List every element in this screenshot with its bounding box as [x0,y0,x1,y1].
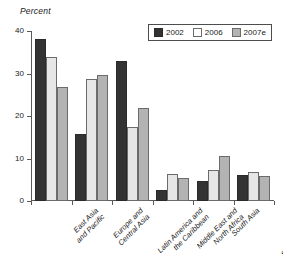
legend-item-label: 2006 [205,28,223,37]
x-axis-tick [153,201,154,205]
legend-item: 2007e [232,28,266,37]
bar-group [116,31,149,201]
y-axis-title: Percent [20,6,51,16]
x-axis-category-label: Europe andCentral Asia [110,206,151,247]
bar [178,178,189,201]
y-axis-tick: 20 [27,116,31,117]
x-axis-tick [72,201,73,205]
legend-swatch-2006 [193,28,202,37]
x-axis-category-label: Sub-Saharan Africa [279,206,283,258]
bar [75,134,86,201]
legend-item-label: 2002 [166,28,184,37]
legend-swatch-2002 [154,28,163,37]
chart-legend: 200220062007e [148,24,272,41]
bar [259,176,270,202]
bar-group [237,31,270,201]
bar [156,190,167,201]
bar [86,79,97,201]
legend-swatch-2007e [232,28,241,37]
y-axis-tick: 10 [27,159,31,160]
x-axis-tick [274,201,275,205]
bar [127,127,138,201]
legend-item: 2006 [193,28,223,37]
bar [97,75,108,201]
y-axis-tick: 30 [27,74,31,75]
x-axis-category-label: Latin America andthe Caribbean [156,206,211,261]
x-axis-category-label: Middle East andNorth Africa [195,206,246,257]
plot-area: 010203040 [31,31,274,201]
x-axis-tick [193,201,194,205]
y-axis-tick-label: 30 [15,69,24,78]
bar [248,172,259,201]
y-axis-tick-label: 10 [15,154,24,163]
bar-group [156,31,189,201]
x-axis-category-label: East Asiaand Pacific [68,206,107,245]
y-axis-tick-label: 40 [15,26,24,35]
bar [46,57,57,202]
bar-group [35,31,68,201]
x-axis-tick [234,201,235,205]
y-axis-line [31,31,32,201]
legend-item-label: 2007e [244,28,266,37]
x-axis-tick [31,201,32,205]
y-axis-tick: 40 [27,31,31,32]
bar [57,87,68,201]
bar [208,170,219,201]
bar [116,61,127,201]
bar-group [75,31,108,201]
bar [197,181,208,201]
y-axis-tick-label: 0 [20,196,24,205]
bar [35,39,46,201]
bar-group [197,31,230,201]
bar [138,108,149,202]
bar [167,174,178,201]
x-axis-tick [112,201,113,205]
bar-chart: Percent 010203040 East Asiaand PacificEu… [0,0,283,268]
x-axis-category-label: South Asia [230,206,262,238]
legend-item: 2002 [154,28,184,37]
bar [237,175,248,201]
y-axis-tick-label: 20 [15,111,24,120]
bar [219,156,230,201]
